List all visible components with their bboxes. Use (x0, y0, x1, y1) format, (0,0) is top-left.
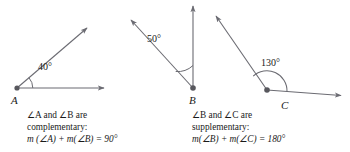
ray-a-diagonal (17, 28, 87, 88)
angle-a-arc (29, 78, 33, 88)
angle-c-arc (253, 71, 287, 92)
vertex-b-label: B (189, 94, 196, 106)
caption-complementary-line1: ∠A and ∠B are (27, 109, 117, 121)
ray-c-diagonal (216, 16, 267, 90)
angle-b-arc (176, 66, 193, 72)
vertex-c-dot (264, 87, 270, 93)
angle-a-group (14, 28, 104, 91)
caption-supplementary: ∠B and ∠C are supplementary: m(∠B) + m(∠… (192, 109, 285, 146)
ray-c-horizontal (267, 90, 341, 96)
caption-complementary-line2: complementary: (27, 121, 117, 133)
vertex-a-dot (14, 85, 19, 90)
caption-supplementary-line1: ∠B and ∠C are (192, 109, 285, 121)
vertex-b-dot (190, 85, 196, 91)
ray-b-diagonal (131, 20, 193, 88)
angle-b-group (131, 6, 196, 91)
angle-b-measure-label: 50° (147, 33, 161, 44)
angle-a-measure-label: 40° (38, 61, 52, 72)
angle-c-group (216, 16, 341, 96)
caption-supplementary-line3: m(∠B) + m(∠C) = 180° (192, 133, 285, 145)
caption-complementary-line3: m (∠A) + m(∠B) = 90° (27, 133, 117, 145)
angle-c-measure-label: 130° (261, 57, 280, 68)
caption-complementary: ∠A and ∠B are complementary: m (∠A) + m(… (27, 109, 117, 146)
geometry-figure: 40° 50° 130° A B C ∠A and ∠B are complem… (0, 0, 350, 152)
vertex-a-label: A (11, 94, 18, 106)
caption-supplementary-line2: supplementary: (192, 121, 285, 133)
